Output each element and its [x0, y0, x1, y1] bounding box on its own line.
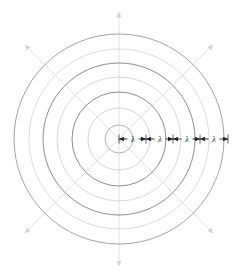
wavelength-measurement-group: λλλλ — [119, 135, 228, 145]
wavefront-diagram: λλλλ — [0, 0, 241, 278]
ray-lower-right — [119, 139, 213, 233]
wavelength-label-4: λ — [211, 135, 216, 144]
ray-upper-right — [119, 45, 213, 139]
wavelength-label-1: λ — [130, 135, 135, 144]
ray-upper-left — [25, 45, 119, 139]
wave-diagram-canvas: λλλλ — [0, 0, 241, 278]
wavelength-label-2: λ — [157, 135, 162, 144]
wavelength-label-3: λ — [184, 135, 189, 144]
ray-lower-left — [25, 139, 119, 233]
